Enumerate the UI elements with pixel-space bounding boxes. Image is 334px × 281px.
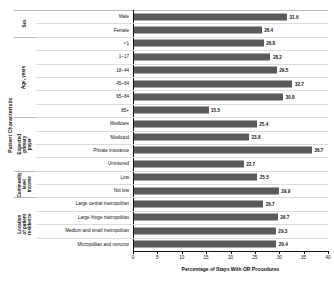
category-group: Location of patient residence	[14, 197, 36, 251]
category-group-label: Age, years	[23, 65, 28, 88]
bar-chart: Patient Characteristic SexAge, yearsExpe…	[0, 0, 334, 281]
bar-value-label: 36.7	[312, 148, 323, 153]
category-group: Sex	[14, 10, 36, 37]
bar-row: 29.9	[133, 184, 328, 197]
bar-value-label: 29.5	[277, 68, 288, 73]
bar-row: 23.8	[133, 130, 328, 143]
row-separator	[36, 50, 328, 51]
row-separator	[36, 117, 328, 118]
bar-value-label: 30.8	[283, 94, 294, 99]
category-label: Female	[36, 23, 132, 36]
bar-row: 31.6	[133, 10, 328, 23]
category-label: Private insurance	[36, 144, 132, 157]
bar	[133, 187, 279, 194]
row-separator	[36, 131, 328, 132]
bar	[133, 241, 276, 248]
row-separator	[36, 64, 328, 65]
x-tick-label: 0	[132, 255, 135, 260]
y-axis-title-text: Patient Characteristic	[7, 97, 13, 153]
bar-value-label: 26.4	[262, 28, 273, 33]
bar-value-label: 25.4	[257, 121, 268, 126]
bar-value-label: 15.5	[209, 108, 220, 113]
bar	[133, 227, 276, 234]
bar-value-label: 29.3	[276, 228, 287, 233]
x-tick	[133, 251, 134, 254]
category-group-label: Sex	[23, 19, 28, 27]
bar-row: 29.5	[133, 64, 328, 77]
category-label: Medium and small metropolitan	[36, 224, 132, 237]
bar-value-label: 26.7	[263, 201, 274, 206]
category-label: Medicare	[36, 117, 132, 130]
category-group-label: Location of patient residence	[18, 213, 32, 235]
row-separator	[36, 224, 328, 225]
bar	[133, 93, 283, 100]
category-label: 18–44	[36, 64, 132, 77]
category-label: Uninsured	[36, 157, 132, 170]
bar	[133, 214, 278, 221]
bar-value-label: 29.7	[278, 215, 289, 220]
bar	[133, 174, 257, 181]
x-tick	[182, 251, 183, 254]
bar	[133, 160, 244, 167]
row-separator	[36, 238, 328, 239]
bar-row: 15.5	[133, 104, 328, 117]
row-separator	[36, 37, 328, 38]
row-separator	[36, 157, 328, 158]
bar-value-label: 28.2	[270, 54, 281, 59]
x-axis-title: Percentage of Stays With OR Procedures	[133, 266, 328, 272]
bar	[133, 80, 292, 87]
category-group-label: Community-level income	[18, 171, 32, 198]
bar	[133, 107, 209, 114]
bar-row: 32.7	[133, 77, 328, 90]
bar	[133, 120, 257, 127]
category-label: Not low	[36, 184, 132, 197]
bar-row: 25.4	[133, 117, 328, 130]
bar	[133, 40, 264, 47]
row-separator	[36, 104, 328, 105]
category-label: 65–84	[36, 90, 132, 103]
x-tick-label: 25	[252, 255, 257, 260]
category-group-label: Expected primary payer	[18, 133, 32, 155]
bar-row: 29.3	[133, 224, 328, 237]
category-label: Male	[36, 10, 132, 23]
bar-row: 30.8	[133, 90, 328, 103]
category-label: 1–17	[36, 50, 132, 63]
category-group: Age, years	[14, 37, 36, 117]
bar-row: 36.7	[133, 144, 328, 157]
bar-row: 26.7	[133, 197, 328, 210]
x-tick	[304, 251, 305, 254]
bar	[133, 134, 249, 141]
bar-value-label: 31.6	[287, 14, 298, 19]
x-tick	[328, 251, 329, 254]
bar	[133, 147, 312, 154]
row-separator	[36, 171, 328, 172]
x-tick-label: 5	[156, 255, 159, 260]
category-label: Large central metropolitan	[36, 197, 132, 210]
x-tick-label: 15	[204, 255, 209, 260]
x-tick-label: 20	[228, 255, 233, 260]
bar	[133, 27, 262, 34]
bar-value-label: 29.4	[276, 242, 287, 247]
row-separator	[36, 90, 328, 91]
x-tick	[255, 251, 256, 254]
row-separator	[36, 23, 328, 24]
category-group-column: SexAge, yearsExpected primary payerCommu…	[14, 10, 36, 251]
bar	[133, 53, 270, 60]
x-tick-label: 35	[301, 255, 306, 260]
category-label: <1	[36, 37, 132, 50]
row-separator	[36, 211, 328, 212]
category-group: Expected primary payer	[14, 117, 36, 171]
row-separator	[36, 77, 328, 78]
category-group: Community-level income	[14, 171, 36, 198]
bar-value-label: 23.8	[249, 135, 260, 140]
x-tick	[157, 251, 158, 254]
bar	[133, 13, 287, 20]
category-label: 85+	[36, 104, 132, 117]
category-label: Large fringe metropolitan	[36, 211, 132, 224]
bar	[133, 200, 263, 207]
x-tick	[206, 251, 207, 254]
category-label: Micropolitan and noncore	[36, 237, 132, 250]
category-label: Medicaid	[36, 130, 132, 143]
bar-row: 29.4	[133, 237, 328, 250]
row-separator	[36, 144, 328, 145]
